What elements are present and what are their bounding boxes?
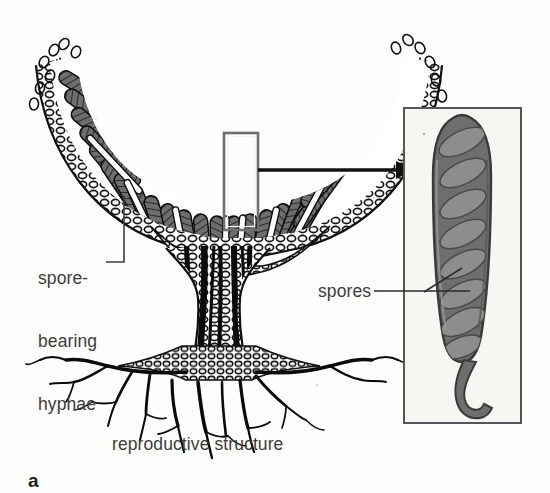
hyphae-label-line-2: bearing <box>38 331 97 352</box>
spores-label: spores <box>318 281 371 302</box>
spore-bearing-hyphae-label: spore- bearing hyphae <box>38 226 97 436</box>
hyphae-label-line-3: hyphae <box>38 394 97 415</box>
ascus-inset-panel[interactable] <box>404 108 521 423</box>
figure-caption: reproductive structure <box>112 434 283 455</box>
hyphae-label-line-1: spore- <box>38 268 97 289</box>
panel-letter: a <box>28 470 39 491</box>
